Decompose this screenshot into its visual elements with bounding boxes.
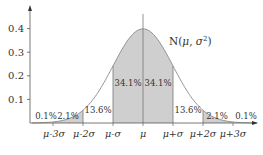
percent-label: 2.1% xyxy=(206,111,228,121)
y-tick-label: 0.2 xyxy=(8,70,24,81)
x-tick-label: μ-3σ xyxy=(43,128,65,139)
y-ticks xyxy=(27,29,30,100)
x-tick-label: μ-σ xyxy=(105,128,121,139)
percent-label: 2.1% xyxy=(57,111,79,121)
distribution-annotation: N(μ, σ2) xyxy=(169,35,212,47)
percent-label: 34.1% xyxy=(144,78,171,88)
percent-label: 13.6% xyxy=(84,105,111,115)
x-tick-label: μ+3σ xyxy=(220,128,247,139)
sigma-lines xyxy=(53,14,233,126)
y-tick-label: 0.3 xyxy=(8,47,24,58)
y-tick-label: 0.1 xyxy=(8,94,24,105)
percent-label: 0.1% xyxy=(235,111,257,121)
x-tick-label: μ xyxy=(140,128,146,139)
y-axis-arrow-icon xyxy=(28,5,32,11)
x-tick-label: μ+2σ xyxy=(190,128,217,139)
percent-label: 0.1% xyxy=(35,111,57,121)
x-tick-label: μ+σ xyxy=(163,128,184,139)
y-tick-label: 0.4 xyxy=(8,23,24,34)
x-axis-arrow-icon xyxy=(252,121,258,125)
percent-label: 13.6% xyxy=(174,105,201,115)
x-tick-label: μ-2σ xyxy=(73,128,95,139)
normal-distribution-chart: 0.1 0.2 0.3 0.4 μ-3σ μ-2σ μ-σ μ μ+σ μ+2σ… xyxy=(0,0,263,155)
shaded-band xyxy=(113,29,143,123)
percent-label: 34.1% xyxy=(114,78,141,88)
